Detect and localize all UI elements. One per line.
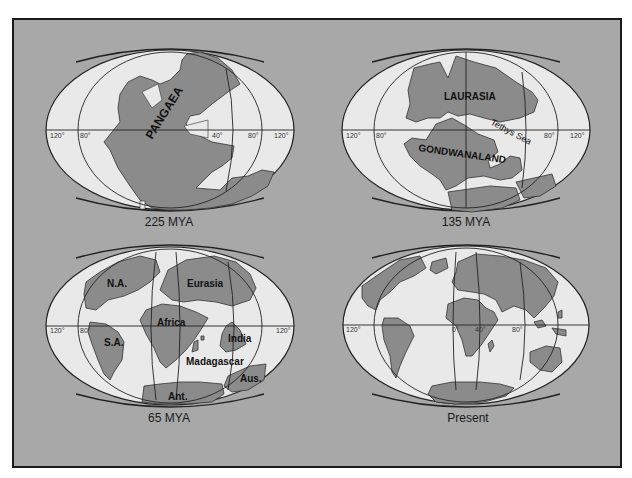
panel-135-mya: 120° 80° 80° 120° LAURASIA GONDWANALAND …: [342, 49, 590, 229]
panel-65-mya: 120° 80° 120° N.A. Eurasia Africa S.A. I…: [46, 245, 294, 425]
panel-225-mya: 120° 80° 40° 80° 120° PANGAEA 225 MYA: [46, 49, 294, 229]
degree-label: 120°: [274, 132, 289, 139]
degree-label: 80°: [512, 326, 523, 333]
degree-label: 120°: [276, 327, 291, 334]
panel-present: 120° 0° 40° 80° Present: [343, 245, 589, 425]
degree-label: 120°: [50, 132, 65, 139]
eurasia-label: Eurasia: [187, 278, 224, 289]
degree-label: 120°: [346, 326, 361, 333]
africa-label: Africa: [157, 317, 186, 328]
degree-label: 40°: [212, 132, 223, 139]
degree-label: 80°: [248, 132, 259, 139]
caption-135-mya: 135 MYA: [442, 215, 490, 229]
sa-label: S.A.: [104, 337, 124, 348]
aus-label: Aus.: [240, 373, 262, 384]
caption-65-mya: 65 MYA: [148, 411, 190, 425]
continental-drift-diagram: 120° 80° 40° 80° 120° PANGAEA 225 MYA 12…: [0, 0, 632, 478]
degree-label: 120°: [50, 327, 65, 334]
degree-label: 40°: [475, 326, 486, 333]
ant-label: Ant.: [168, 391, 188, 402]
laurasia-label: LAURASIA: [444, 91, 496, 102]
degree-label: 80°: [80, 327, 91, 334]
caption-present: Present: [447, 411, 489, 425]
degree-label: 80°: [376, 132, 387, 139]
madagascar-label: Madagascar: [186, 356, 244, 367]
degree-label: 0°: [452, 326, 459, 333]
india-label: India: [228, 333, 252, 344]
na-label: N.A.: [107, 278, 127, 289]
degree-label: 80°: [80, 132, 91, 139]
degree-label: 80°: [544, 132, 555, 139]
degree-label: 120°: [346, 132, 361, 139]
degree-label: 120°: [570, 132, 585, 139]
caption-225-mya: 225 MYA: [145, 215, 193, 229]
